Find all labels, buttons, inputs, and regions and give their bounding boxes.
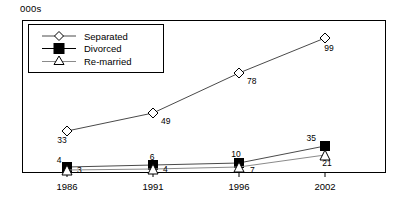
x-tick-label-1996: 1996 <box>228 181 249 192</box>
data-point-label: 4 <box>163 164 168 174</box>
legend: Separated Divorced Re-married <box>29 25 164 73</box>
data-point-label: 78 <box>247 76 257 86</box>
data-point-label: 99 <box>324 43 334 53</box>
data-point-label: 4 <box>57 155 62 165</box>
data-point-label: 6 <box>150 152 155 162</box>
diamond-open-marker-icon <box>148 108 158 118</box>
legend-label-separated: Separated <box>84 31 128 42</box>
series-line-divorced <box>67 146 325 167</box>
x-axis-ticks <box>67 173 325 178</box>
legend-label-remarried: Re-married <box>84 56 132 67</box>
series-remarried: 34721 <box>62 150 332 175</box>
line-chart-svg: 1986 1991 1996 2002 33497899 461035 3472… <box>0 0 405 204</box>
y-axis-unit-label: 000s <box>20 3 41 14</box>
series-markers-remarried <box>62 150 330 175</box>
x-tick-label-2002: 2002 <box>314 181 335 192</box>
data-point-label: 3 <box>77 165 82 175</box>
x-tick-label-1991: 1991 <box>142 181 163 192</box>
data-point-label: 33 <box>57 135 67 145</box>
data-point-label: 49 <box>161 116 171 126</box>
square-filled-marker-icon <box>54 44 64 54</box>
data-point-label: 21 <box>322 158 332 168</box>
x-tick-label-1986: 1986 <box>56 181 77 192</box>
series-line-remarried <box>67 155 325 170</box>
x-axis-tick-labels: 1986 1991 1996 2002 <box>56 181 335 192</box>
chart-container: 000s 1986 1991 1996 2002 33497899 <box>0 0 405 204</box>
series-markers-divorced <box>63 142 330 172</box>
series-data-labels-divorced: 461035 <box>57 133 317 165</box>
series-divorced: 461035 <box>57 133 330 172</box>
data-point-label: 7 <box>250 165 255 175</box>
diamond-open-marker-icon <box>234 68 244 78</box>
diamond-open-marker-icon <box>320 33 330 43</box>
data-point-label: 10 <box>231 149 241 159</box>
legend-label-divorced: Divorced <box>84 43 122 54</box>
data-point-label: 35 <box>307 133 317 143</box>
